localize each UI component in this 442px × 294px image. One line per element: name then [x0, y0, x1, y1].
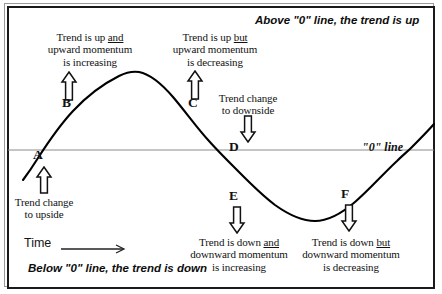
arrow-up-a-icon [35, 166, 53, 194]
note-f-line1: Trend is down but [312, 236, 390, 248]
note-a: Trend change to upside [5, 196, 83, 221]
note-f-line2: downward momentum [294, 248, 408, 260]
top-caption: Above "0" line, the trend is up [255, 14, 419, 27]
point-label-c: C [188, 95, 198, 110]
note-c-emphasis: but [234, 31, 248, 43]
note-c-line2: upward momentum [150, 43, 280, 55]
note-a-line1: Trend change [5, 196, 83, 208]
point-label-e: E [229, 188, 238, 203]
momentum-cycle-diagram: Above "0" line, the trend is up Below "0… [0, 0, 442, 294]
note-e-line3: is increasing [182, 261, 296, 273]
note-f-line3: is decreasing [294, 261, 408, 273]
arrow-down-e-icon [228, 206, 246, 234]
note-b: Trend is up and upward momentum is incre… [22, 31, 158, 68]
note-b-line2: upward momentum [22, 43, 158, 55]
time-axis-label: Time [24, 236, 51, 250]
note-e-line2: downward momentum [182, 248, 296, 260]
point-label-a: A [33, 147, 43, 162]
note-d-line1: Trend change [201, 92, 295, 104]
note-f: Trend is down but downward momentum is d… [294, 236, 408, 273]
note-a-line2: to upside [5, 208, 83, 220]
arrow-down-f-icon [340, 204, 358, 232]
note-d: Trend change to downside [201, 92, 295, 117]
note-e-emphasis: and [263, 236, 279, 248]
point-label-d: D [229, 139, 239, 154]
note-c-line1: Trend is up but [182, 31, 247, 43]
note-b-emphasis: and [108, 31, 124, 43]
note-f-emphasis: but [376, 236, 390, 248]
note-c: Trend is up but upward momentum is decre… [150, 31, 280, 68]
bottom-caption: Below "0" line, the trend is down [28, 262, 207, 275]
note-b-line1: Trend is up and [57, 31, 124, 43]
note-b-line3: is increasing [22, 56, 158, 68]
note-e: Trend is down and downward momentum is i… [182, 236, 296, 273]
point-label-f: F [341, 186, 349, 201]
note-e-line1: Trend is down and [199, 236, 279, 248]
zero-line-label: "0" line [362, 141, 403, 154]
point-label-b: B [62, 95, 71, 110]
arrow-down-d-icon [239, 115, 257, 143]
note-c-line3: is decreasing [150, 56, 280, 68]
